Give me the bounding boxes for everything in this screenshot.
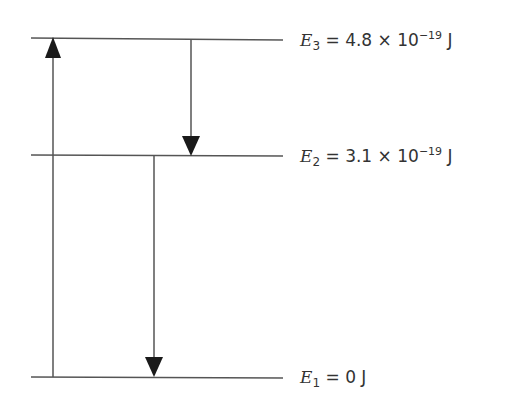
arrowhead-down-icon [182,136,200,156]
transition-arrow-e2-to-e1 [145,155,163,377]
times-sign: × [378,30,392,50]
times-sign: × [378,146,392,166]
energy-unit: J [448,30,453,50]
transition-arrow-e3-to-e2 [182,39,200,156]
energy-base: 10 [397,146,419,166]
level-line-e3 [31,38,283,40]
level-label-e2: E2 = 3.1 × 10−19 J [300,146,453,166]
level-line-e1 [31,377,283,378]
arrowhead-up-icon [45,37,61,58]
energy-exponent: −19 [419,145,442,158]
equals-sign: = [325,146,339,166]
energy-level-diagram [0,0,505,403]
level-label-e1: E1 = 0 J [300,367,366,387]
energy-subscript: 2 [312,155,320,169]
energy-subscript: 3 [312,39,320,53]
energy-symbol: E [300,146,312,166]
energy-subscript: 1 [312,376,320,390]
equals-sign: = [325,30,339,50]
arrowhead-down-icon [145,357,163,377]
level-label-e3: E3 = 4.8 × 10−19 J [300,30,453,50]
energy-symbol: E [300,30,312,50]
equals-sign: = [325,367,339,387]
energy-unit: J [448,146,453,166]
transition-arrow-e1-to-e3 [45,37,61,377]
energy-exponent: −19 [419,29,442,42]
energy-base: 10 [397,30,419,50]
level-line-e2 [31,155,283,156]
energy-mantissa: 4.8 [345,30,372,50]
energy-value: 0 [345,367,356,387]
energy-unit: J [361,367,366,387]
energy-mantissa: 3.1 [345,146,372,166]
energy-symbol: E [300,367,312,387]
